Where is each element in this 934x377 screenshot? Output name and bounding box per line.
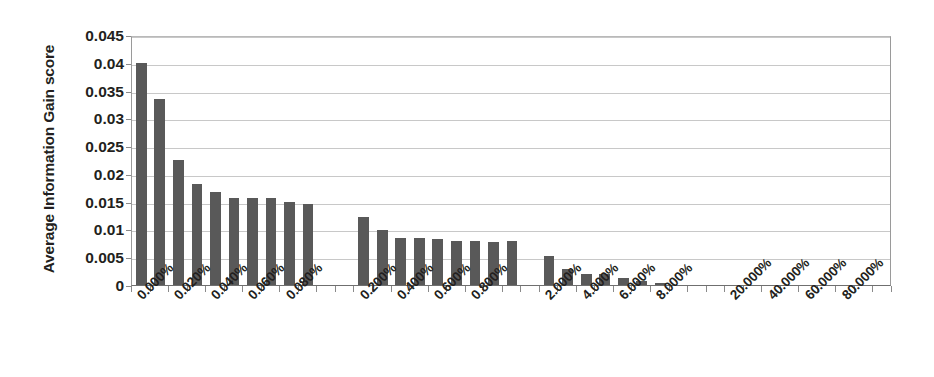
- y-axis-tick-label: 0.005: [54, 250, 124, 266]
- bar: [154, 99, 165, 285]
- bars-container: [132, 37, 890, 285]
- x-axis-tick-labels: 0.000%0.020%0.040%0.060%0.080%0.200%0.40…: [131, 292, 931, 377]
- plot-area: [131, 36, 891, 286]
- bar: [507, 241, 518, 285]
- y-axis-tick-label: 0.035: [54, 84, 124, 100]
- bar: [358, 217, 369, 285]
- bar: [284, 202, 295, 285]
- y-axis-tick-label: 0.02: [54, 167, 124, 183]
- y-axis-tick-label: 0.025: [54, 139, 124, 155]
- bar: [395, 238, 406, 285]
- y-axis-tick-labels: 00.0050.010.0150.020.0250.030.0350.040.0…: [48, 36, 124, 286]
- bar: [173, 160, 184, 285]
- y-axis-tick-label: 0.015: [54, 195, 124, 211]
- y-axis-tick-label: 0.03: [54, 112, 124, 128]
- y-axis-tick-label: 0.04: [54, 56, 124, 72]
- y-axis-tick-label: 0.045: [54, 28, 124, 44]
- bar: [432, 239, 443, 285]
- bar: [470, 241, 481, 285]
- bar-chart: Average Information Gain score 00.0050.0…: [0, 0, 934, 377]
- y-axis-tick-label: 0.01: [54, 223, 124, 239]
- bar: [136, 63, 147, 285]
- y-axis-tick-label: 0: [54, 278, 124, 294]
